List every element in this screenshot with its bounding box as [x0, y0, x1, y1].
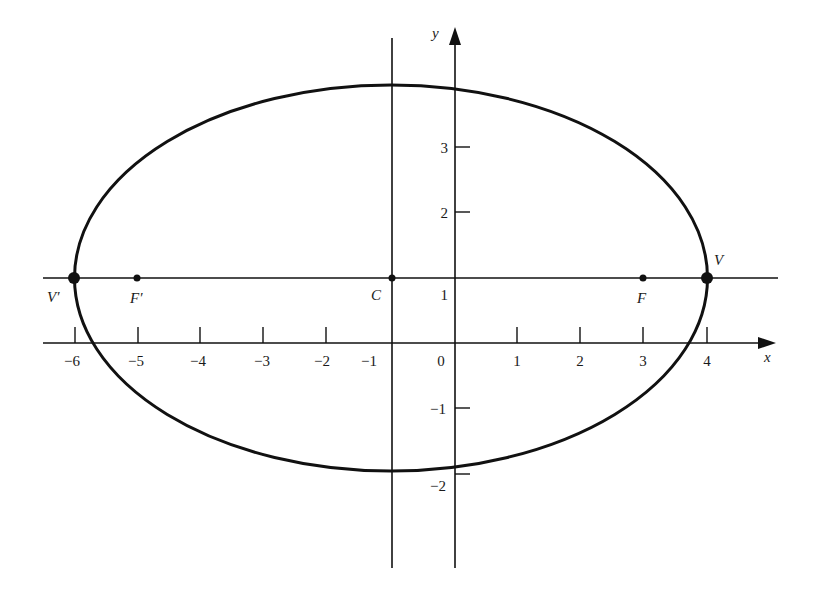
vertex-v-prime-label: V′	[47, 289, 60, 305]
point-labels: V′ F′ C F V	[47, 252, 725, 306]
x-axis-label: x	[763, 349, 771, 365]
x-axis-arrow-icon	[758, 337, 776, 349]
focus-f-prime-label: F′	[129, 290, 143, 306]
focus-f-prime-point	[134, 275, 141, 282]
y-axis-arrow-icon	[449, 27, 461, 45]
x-tick-label: 2	[576, 353, 584, 369]
center-c-label: C	[371, 287, 382, 303]
x-tick-labels: −6 −5 −4 −3 −2 −1 0 1 2 3 4	[64, 353, 711, 369]
x-tick-label: 0	[437, 353, 445, 369]
x-ticks	[75, 327, 707, 343]
y-tick-label: 1	[441, 287, 449, 303]
y-tick-label: 3	[441, 140, 449, 156]
y-ticks	[455, 147, 470, 474]
x-tick-label: 4	[703, 353, 711, 369]
x-tick-label: −3	[254, 353, 270, 369]
x-tick-label: −6	[64, 353, 80, 369]
vertex-v-label: V	[714, 252, 725, 268]
y-tick-label: −1	[430, 401, 446, 417]
x-tick-label: 1	[513, 353, 521, 369]
x-tick-label: −4	[190, 353, 206, 369]
y-tick-labels: 3 2 1 −1 −2	[430, 140, 448, 494]
center-c-point	[389, 275, 396, 282]
focus-f-point	[640, 275, 647, 282]
x-tick-label: −1	[361, 353, 377, 369]
focus-f-label: F	[636, 290, 647, 306]
y-tick-label: 2	[441, 205, 449, 221]
y-tick-label: −2	[430, 478, 446, 494]
x-tick-label: −5	[128, 353, 144, 369]
x-tick-label: 3	[639, 353, 647, 369]
x-tick-label: −2	[314, 353, 330, 369]
x-axis: x	[43, 337, 776, 365]
vertex-v-prime-point	[68, 272, 80, 284]
ellipse-diagram: x y −6 −5 −4 −3 −2 −1 0 1 2 3 4	[0, 0, 815, 601]
vertex-v-point	[701, 272, 713, 284]
y-axis-label: y	[430, 25, 439, 41]
